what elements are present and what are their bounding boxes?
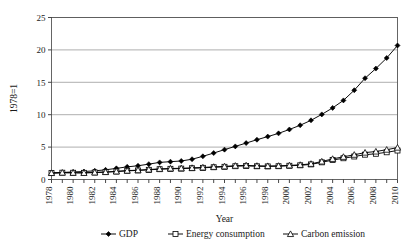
- x-tick-label: 1990: [173, 186, 183, 205]
- x-tick-label: 2004: [325, 186, 335, 205]
- y-tick-label: 10: [37, 110, 47, 120]
- line-chart: 0510152025 19781980198219841986198819901…: [0, 0, 417, 246]
- x-tick-label: 1982: [87, 187, 97, 205]
- x-tick-label: 1988: [152, 186, 162, 205]
- x-tick-label: 1978: [44, 186, 54, 205]
- x-tick-label: 1998: [260, 186, 270, 205]
- x-tick-label: 1980: [65, 186, 75, 205]
- x-tick-label: 2010: [390, 186, 400, 205]
- x-tick-label: 1996: [238, 186, 248, 205]
- x-tick-label: 1992: [195, 187, 205, 205]
- legend-label: Carbon emission: [301, 229, 365, 239]
- x-tick-label: 1984: [108, 186, 118, 205]
- chart-background: [0, 0, 417, 246]
- y-tick-label: 0: [41, 175, 46, 185]
- x-tick-label: 1986: [130, 186, 140, 205]
- chart-container: 0510152025 19781980198219841986198819901…: [0, 0, 417, 246]
- x-tick-label: 2008: [368, 186, 378, 205]
- legend-label: Energy consumption: [186, 229, 265, 239]
- y-tick-label: 15: [37, 78, 47, 88]
- legend-label: GDP: [119, 229, 138, 239]
- x-tick-label: 2000: [281, 186, 291, 205]
- y-axis-title: 1978=1: [9, 84, 19, 113]
- x-tick-label: 2006: [346, 186, 356, 205]
- y-tick-label: 20: [37, 45, 47, 55]
- data-point-open-square: [173, 232, 178, 237]
- x-tick-label: 1994: [217, 186, 227, 205]
- x-axis-title: Year: [216, 214, 234, 224]
- y-tick-label: 5: [41, 142, 46, 152]
- x-tick-label: 2002: [303, 187, 313, 205]
- y-tick-label: 25: [37, 13, 47, 23]
